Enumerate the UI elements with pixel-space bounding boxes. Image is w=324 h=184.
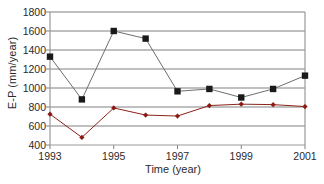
series-line-red-series [50,104,305,137]
chart-figure: E-P (mm/year) 40060080010001200140016001… [0,0,324,184]
data-point-black-series-1995 [111,28,117,34]
plot-area [0,0,324,184]
data-point-red-series-1999 [239,102,244,107]
data-series [47,28,308,140]
data-point-black-series-1993 [47,53,53,59]
gridlines [50,12,305,126]
data-point-red-series-1997 [175,113,180,118]
data-point-red-series-2001 [302,104,307,109]
plot-frame [50,12,305,145]
data-point-black-series-1999 [238,94,244,100]
x-axis-title: Time (year) [48,163,298,175]
data-point-black-series-1997 [174,88,180,94]
data-point-black-series-2001 [302,72,308,78]
data-point-black-series-1994 [79,96,85,102]
data-point-black-series-1996 [142,35,148,41]
data-point-red-series-1996 [143,112,148,117]
data-point-black-series-1998 [206,86,212,92]
data-point-red-series-2000 [271,102,276,107]
data-point-black-series-2000 [270,86,276,92]
axis-ticks [46,12,305,149]
